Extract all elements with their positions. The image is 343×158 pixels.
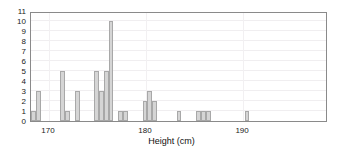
y-tick-label-9: 9	[22, 28, 26, 36]
bar	[206, 111, 211, 121]
bar	[123, 111, 128, 121]
bar	[177, 111, 182, 121]
bar	[65, 111, 70, 121]
x-tick-label-180: 180	[138, 126, 151, 135]
bar	[109, 21, 114, 121]
y-tick-label-7: 7	[22, 48, 26, 56]
y-tick-label-1: 1	[22, 108, 26, 116]
bar	[245, 111, 250, 121]
bar	[75, 91, 80, 121]
y-tick-label-4: 4	[22, 78, 26, 86]
y-tick-label-10: 10	[17, 18, 26, 26]
y-tick-label-5: 5	[22, 68, 26, 76]
y-tick-label-2: 2	[22, 98, 26, 106]
plot-area	[30, 12, 327, 122]
bar-series	[31, 13, 326, 121]
histogram-chart: 01234567891011 170180190 Height (cm)	[0, 0, 343, 158]
y-tick-label-8: 8	[22, 38, 26, 46]
bar	[152, 101, 157, 121]
y-tick-label-11: 11	[18, 8, 26, 16]
y-tick-label-6: 6	[22, 58, 26, 66]
x-tick-label-190: 190	[235, 126, 248, 135]
x-tick-label-170: 170	[41, 126, 54, 135]
y-tick-label-3: 3	[22, 88, 26, 96]
x-axis-title: Height (cm)	[0, 136, 343, 147]
bar	[36, 91, 41, 121]
y-axis: 01234567891011	[0, 0, 30, 134]
